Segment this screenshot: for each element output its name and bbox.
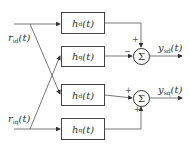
block-hq-2: hq(t): [61, 118, 105, 140]
block-hd-2: hd(t): [61, 84, 105, 106]
input-label-rid: rid(t): [8, 33, 30, 44]
sign-sum1-top: +: [132, 36, 139, 44]
input-label-riq: riq(t): [8, 114, 30, 125]
output-label-ysq: ysq(t): [158, 85, 182, 96]
sigma-icon: Σ: [138, 93, 145, 104]
block-diagram: rid(t) riq(t) hd(t) hq(t) hd(t) hq(t) Σ …: [0, 0, 190, 153]
summer-1: Σ: [133, 48, 150, 65]
sign-sum2-left: +: [125, 87, 132, 95]
sigma-icon: Σ: [138, 51, 145, 62]
block-hq-1: hq(t): [61, 46, 105, 67]
output-label-ysd: ysd(t): [158, 43, 182, 54]
sign-sum2-bottom: +: [134, 106, 141, 114]
sign-sum1-left: −: [124, 48, 131, 56]
block-hd-1: hd(t): [61, 12, 105, 34]
